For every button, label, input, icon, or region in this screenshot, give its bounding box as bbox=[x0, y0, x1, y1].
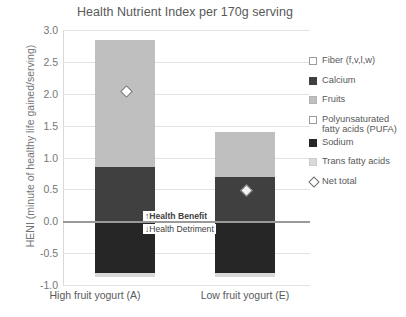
y-tick-label: -0.5 bbox=[14, 248, 58, 258]
y-axis-ticks: 3.0 2.5 2.0 1.5 1.0 0.5 0.0 -0.5 -1.0 bbox=[0, 30, 58, 285]
legend-swatch-icon bbox=[309, 96, 317, 104]
chart-container: Health Nutrient Index per 170g serving H… bbox=[0, 0, 406, 317]
legend-diamond-icon bbox=[309, 178, 317, 186]
y-tick-label: 3.0 bbox=[14, 25, 58, 35]
bar-high-fruit-yogurt[interactable] bbox=[95, 30, 155, 285]
bar-segment-fruits bbox=[215, 132, 275, 177]
legend-item-fruits[interactable]: Fruits bbox=[309, 94, 406, 105]
legend-label: Trans fatty acids bbox=[322, 156, 390, 167]
y-tick-label: 0.0 bbox=[14, 216, 58, 226]
legend-item-calcium[interactable]: Calcium bbox=[309, 75, 406, 86]
legend-item-fiber[interactable]: Fiber (f,v,l,w) bbox=[309, 55, 406, 66]
bar-segment-trans-fatty-acids bbox=[95, 273, 155, 277]
legend-item-trans-fatty-acids[interactable]: Trans fatty acids bbox=[309, 156, 406, 167]
chart-legend: Fiber (f,v,l,w) Calcium Fruits Polyunsat… bbox=[309, 55, 406, 195]
zero-line bbox=[63, 221, 310, 222]
legend-label: Fruits bbox=[322, 94, 345, 105]
bar-low-fruit-yogurt[interactable] bbox=[215, 30, 275, 285]
plot-area: ↑Health Benefit ↓Health Detriment bbox=[63, 30, 310, 285]
chart-title: Health Nutrient Index per 170g serving bbox=[60, 5, 310, 19]
x-axis-label-low-fruit-yogurt: Low fruit yogurt (E) bbox=[185, 289, 305, 301]
legend-swatch-icon bbox=[309, 139, 317, 147]
legend-label: Fiber (f,v,l,w) bbox=[322, 55, 375, 66]
legend-swatch-icon bbox=[309, 158, 317, 166]
health-detriment-annotation: ↓Health Detriment bbox=[143, 224, 216, 234]
gridline bbox=[63, 285, 310, 286]
legend-label: Calcium bbox=[322, 75, 356, 86]
legend-item-pufa[interactable]: Polyunsaturated fatty acids (PUFA) bbox=[309, 114, 406, 135]
legend-label: Sodium bbox=[322, 137, 354, 148]
y-tick-label: 1.0 bbox=[14, 153, 58, 163]
y-tick-label: 1.5 bbox=[14, 121, 58, 131]
y-tick-label: 2.5 bbox=[14, 57, 58, 67]
y-tick-label: 0.5 bbox=[14, 184, 58, 194]
legend-swatch-icon bbox=[309, 116, 317, 124]
legend-swatch-icon bbox=[309, 57, 317, 65]
bar-segment-fruits bbox=[95, 40, 155, 168]
legend-item-sodium[interactable]: Sodium bbox=[309, 137, 406, 148]
legend-swatch-icon bbox=[309, 77, 317, 85]
bar-segment-sodium bbox=[215, 222, 275, 273]
legend-label: Net total bbox=[322, 176, 357, 187]
y-tick-label: 2.0 bbox=[14, 89, 58, 99]
x-axis-label-high-fruit-yogurt: High fruit yogurt (A) bbox=[35, 289, 155, 301]
health-benefit-annotation: ↑Health Benefit bbox=[143, 211, 209, 221]
bar-segment-calcium bbox=[215, 177, 275, 222]
legend-label: Polyunsaturated fatty acids (PUFA) bbox=[322, 114, 406, 135]
legend-item-net-total[interactable]: Net total bbox=[309, 176, 406, 187]
bar-segment-trans-fatty-acids bbox=[215, 273, 275, 277]
